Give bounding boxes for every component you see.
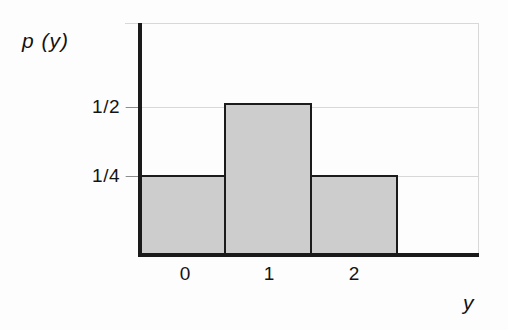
probability-mass-function-chart: 1/2 1/4 0 1 2 p (y) y [0, 0, 508, 330]
x-axis-line [138, 253, 479, 257]
y-axis-title: p (y) [22, 29, 69, 53]
x-tick-label-0: 0 [165, 263, 205, 285]
bar-y-2 [310, 175, 398, 256]
bar-y-0 [138, 175, 226, 256]
x-tick-label-1: 1 [249, 263, 289, 285]
y-tick-label-one-quarter: 1/4 [52, 165, 120, 187]
bar-y-1 [224, 103, 312, 256]
x-axis-title: y [463, 291, 474, 315]
x-tick-label-2: 2 [334, 263, 374, 285]
y-tick-label-one-half: 1/2 [52, 96, 120, 118]
y-axis-line [138, 23, 142, 256]
